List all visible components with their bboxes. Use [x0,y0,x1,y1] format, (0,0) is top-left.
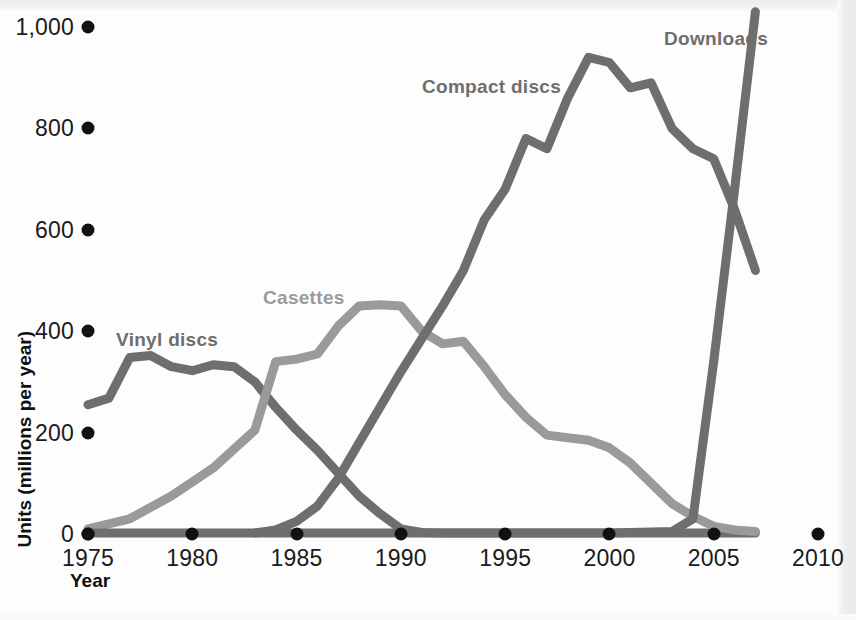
x-tick-label: 2010 [792,545,844,572]
y-tick-dot [82,21,95,34]
y-tick-dot [82,223,95,236]
x-tick-label: 2005 [688,545,740,572]
x-tick-dot [394,528,407,541]
series-label-downloads: Downloads [664,28,768,50]
x-axis-title: Year [70,570,110,592]
x-tick-label: 1985 [271,545,323,572]
x-tick-dot [499,528,512,541]
y-tick-label: 400 [35,318,74,345]
x-tick-label: 2000 [583,545,635,572]
y-tick-label: 0 [61,521,74,548]
y-tick-label: 800 [35,115,74,142]
series-label-vinyl-discs: Vinyl discs [116,329,218,351]
y-tick-label: 600 [35,216,74,243]
x-tick-dot [603,528,616,541]
y-tick-dot [82,325,95,338]
x-tick-label: 1995 [479,545,531,572]
x-tick-dot [812,528,825,541]
series-label-casettes: Casettes [263,287,345,309]
x-tick-dot [290,528,303,541]
x-tick-dot [707,528,720,541]
chart-canvas: 1,00080060040020001975198019851990199520… [0,0,856,620]
series-label-compact-discs: Compact discs [422,76,561,98]
x-tick-label: 1990 [375,545,427,572]
x-tick-dot [82,528,95,541]
x-tick-label: 1980 [166,545,218,572]
x-tick-label: 1975 [62,545,114,572]
y-axis-title: Units (millions per year) [14,331,36,547]
y-tick-dot [82,426,95,439]
y-tick-dot [82,122,95,135]
x-tick-dot [186,528,199,541]
y-tick-label: 1,000 [15,14,74,41]
y-tick-label: 200 [35,419,74,446]
